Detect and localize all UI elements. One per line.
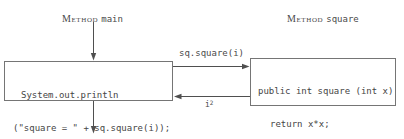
- call-arrow-label: sq.square(i): [179, 48, 244, 58]
- method-main-name: main: [101, 14, 123, 24]
- method-call-diagram: Methodmain Methodsquare System.out.print…: [0, 0, 404, 139]
- main-code-box: System.out.println ("square = " + sq.squ…: [4, 61, 173, 101]
- method-square-name: square: [326, 14, 359, 24]
- call-arrow-icon: [173, 64, 250, 69]
- method-square-header: Methodsquare: [287, 8, 359, 26]
- return-arrow-label: i2: [205, 99, 213, 109]
- main-code-line: System.out.println: [21, 90, 172, 101]
- square-code-line: public int square (int x): [258, 86, 395, 97]
- square-code-box: public int square (int x) return x*x; }: [250, 58, 396, 106]
- method-main-header: Methodmain: [62, 8, 123, 26]
- return-value-exponent: 2: [210, 99, 214, 106]
- method-square-prefix: Method: [287, 13, 323, 24]
- main-entry-arrow-icon: [91, 22, 96, 61]
- method-main-prefix: Method: [62, 13, 98, 24]
- square-code-line: return x*x;: [270, 119, 395, 130]
- main-code-line: ("square = " + sq.square(i));: [13, 123, 172, 134]
